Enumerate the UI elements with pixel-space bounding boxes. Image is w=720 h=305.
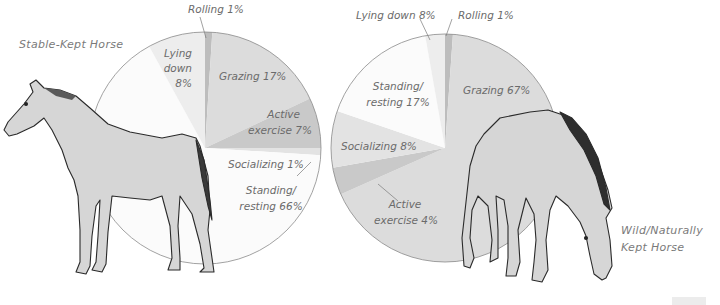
corner-mark [672, 297, 706, 305]
label-left-socializing: Socializing 1% [228, 158, 304, 171]
label-right-grazing: Grazing 67% [463, 84, 530, 97]
title-wild-kept-line2: Kept Horse [621, 239, 684, 256]
label-left-lying-3: 8% [158, 77, 192, 90]
title-stable-kept: Stable-Kept Horse [19, 36, 123, 53]
label-left-standing-2: resting 66% [226, 200, 316, 213]
label-left-lying-1: Lying [158, 47, 192, 60]
figure: Stable-Kept Horse Wild/Naturally Kept Ho… [0, 0, 720, 305]
label-right-standing-1: Standing/ [358, 80, 438, 93]
label-right-active-2: exercise 4% [366, 214, 446, 227]
label-right-standing-2: resting 17% [358, 96, 438, 109]
label-right-socializing: Socializing 8% [341, 140, 417, 153]
title-wild-kept-line1: Wild/Naturally [621, 222, 703, 239]
label-left-lying-2: down [158, 62, 192, 75]
label-left-active-1: Active [240, 108, 300, 121]
label-left-active-2: exercise 7% [230, 124, 312, 137]
label-left-standing-1: Standing/ [226, 184, 316, 197]
label-left-grazing: Grazing 17% [219, 70, 286, 83]
label-right-active-1: Active [370, 198, 440, 211]
label-right-rolling: Rolling 1% [458, 9, 514, 22]
wild-horse-illustration [462, 110, 612, 282]
label-right-lying: Lying down 8% [356, 9, 436, 22]
label-left-rolling: Rolling 1% [188, 3, 244, 16]
